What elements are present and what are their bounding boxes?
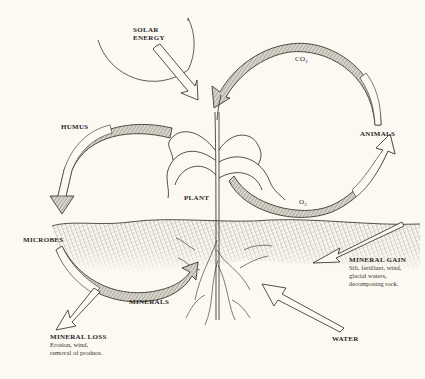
co2-label: CO2 [295,55,308,66]
co2-subscript: 2 [305,59,308,64]
animals-label: ANIMALS [360,130,395,138]
mineral-loss-desc-line2: removal of produce. [50,349,103,357]
o2-arrow [229,134,395,217]
o2-label: O2 [299,198,307,209]
plant-text: PLANT [184,194,209,202]
solar-energy-label-line1: SOLAR [133,26,165,34]
minerals-text: MINERALS [129,298,169,306]
minerals-label: MINERALS [129,298,169,306]
mineral-gain-description: Silt, fertilizer, wind, glacial waters, … [349,264,401,288]
mineral-gain-desc-line2: glacial waters, [349,272,401,280]
humus-label: HUMUS [61,123,89,131]
mineral-loss-text: MINERAL LOSS [50,333,107,341]
mineral-gain-text: MINERAL GAIN [349,256,406,264]
co2-text: CO [295,55,305,63]
mineral-loss-description: Erosion, wind, removal of produce. [50,341,103,357]
humus-arrow [50,124,172,214]
mineral-loss-arrow [56,288,100,330]
solar-energy-label-line2: ENERGY [133,34,165,42]
animals-text: ANIMALS [360,130,395,138]
mineral-gain-desc-line1: Silt, fertilizer, wind, [349,264,401,272]
solar-energy-label: SOLAR ENERGY [133,26,165,42]
microbes-text: MICROBES [23,236,64,244]
diagram-artwork [0,0,425,379]
plant-label: PLANT [184,194,209,202]
water-label: WATER [332,335,359,343]
mineral-loss-desc-line1: Erosion, wind, [50,341,103,349]
microbes-label: MICROBES [23,236,64,244]
mineral-gain-label: MINERAL GAIN [349,256,406,264]
water-text: WATER [332,335,359,343]
solar-energy-arrow [153,44,198,100]
mineral-gain-desc-line3: decomposing rock. [349,280,401,288]
water-arrow [262,284,344,332]
mineral-loss-label: MINERAL LOSS [50,333,107,341]
humus-text: HUMUS [61,123,89,131]
o2-subscript: 2 [304,202,307,207]
